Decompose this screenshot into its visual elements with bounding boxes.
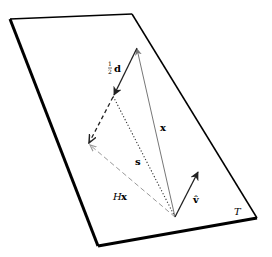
- label-s: s: [135, 156, 141, 167]
- label-plane-T: T: [234, 206, 242, 217]
- label-x: x: [160, 122, 167, 133]
- label-Hx-x: x: [121, 191, 128, 202]
- label-half-d: 1 2 d: [108, 60, 121, 75]
- tangent-plane: [10, 14, 257, 246]
- plane-edge-left: [10, 19, 98, 246]
- label-half-d-numerator: 1: [108, 60, 112, 67]
- vector-Hx: [90, 145, 175, 217]
- label-v-hat: v̂: [192, 194, 200, 205]
- diagram-canvas: 1 2 d x s H x v̂ T: [0, 0, 272, 257]
- diagram-svg: 1 2 d x s H x v̂ T: [0, 0, 272, 257]
- label-Hx: H x: [112, 191, 128, 202]
- vector-dashed-black: [89, 97, 113, 143]
- label-half-d-vector: d: [114, 63, 121, 74]
- plane-edge-bottom: [98, 218, 257, 246]
- plane-edge-top: [10, 14, 132, 19]
- label-half-d-denominator: 2: [108, 68, 112, 75]
- plane-edge-right: [132, 14, 257, 218]
